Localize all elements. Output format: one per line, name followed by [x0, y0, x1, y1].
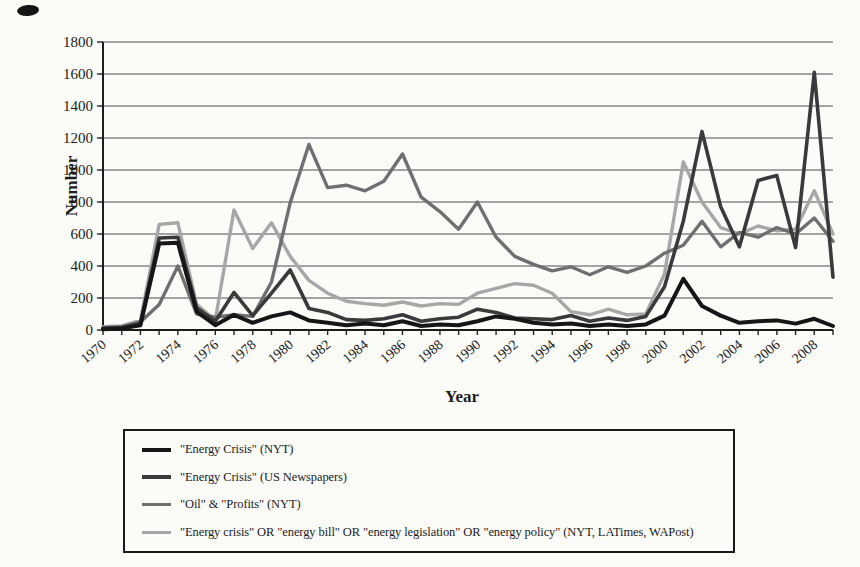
x-axis-title: Year	[445, 387, 479, 406]
legend: "Energy Crisis" (NYT) "Energy Crisis" (U…	[123, 429, 735, 553]
x-tick-label: 1982	[302, 337, 333, 366]
legend-item: "Oil" & "Profits" (NYT)	[142, 497, 733, 512]
series-line-swatch	[142, 448, 171, 452]
legend-item: "Energy crisis" OR "energy bill" OR "ene…	[142, 525, 733, 540]
chart-svg: 0200400600800100012001400160018001970197…	[0, 0, 860, 425]
legend-label: "Oil" & "Profits" (NYT)	[180, 497, 301, 512]
y-tick-label: 1800	[63, 34, 93, 50]
y-tick-label: 1600	[63, 66, 93, 82]
legend-item: "Energy Crisis" (NYT)	[142, 442, 733, 457]
x-tick-label: 1974	[153, 337, 184, 366]
x-tick-label: 2004	[714, 337, 745, 366]
legend-label: "Energy crisis" OR "energy bill" OR "ene…	[180, 525, 694, 540]
series-line-swatch	[142, 503, 171, 506]
y-axis-title: Number	[62, 155, 81, 216]
legend-label: "Energy Crisis" (US Newspapers)	[180, 470, 347, 485]
x-tick-label: 1970	[78, 337, 109, 366]
x-tick-label: 2000	[639, 337, 670, 366]
x-tick-label: 1976	[190, 337, 221, 366]
x-tick-label: 1984	[340, 337, 371, 366]
x-tick-label: 1996	[565, 337, 596, 366]
y-tick-label: 1400	[63, 98, 93, 114]
x-tick-label: 1992	[490, 337, 521, 366]
x-tick-label: 1986	[377, 337, 408, 366]
x-tick-label: 1988	[415, 337, 446, 366]
x-tick-label: 2006	[752, 337, 783, 366]
y-tick-label: 400	[71, 258, 94, 274]
figure: 0200400600800100012001400160018001970197…	[0, 0, 860, 567]
y-tick-label: 0	[86, 322, 94, 338]
x-tick-label: 2002	[677, 337, 708, 366]
x-tick-label: 1972	[115, 337, 146, 366]
x-tick-label: 1980	[265, 337, 296, 366]
legend-item: "Energy Crisis" (US Newspapers)	[142, 470, 733, 485]
x-tick-label: 2008	[789, 337, 820, 366]
y-tick-label: 200	[71, 290, 94, 306]
series-line-swatch	[142, 531, 171, 534]
legend-label: "Energy Crisis" (NYT)	[180, 442, 293, 457]
series-line-swatch	[142, 475, 171, 479]
chart-render-target: 0200400600800100012001400160018001970197…	[63, 34, 833, 366]
x-tick-label: 1978	[228, 337, 259, 366]
x-tick-label: 1998	[602, 337, 633, 366]
series-line	[103, 72, 833, 328]
y-tick-label: 1200	[63, 130, 93, 146]
y-tick-label: 600	[71, 226, 94, 242]
x-tick-label: 1990	[452, 337, 483, 366]
x-tick-label: 1994	[527, 337, 558, 366]
